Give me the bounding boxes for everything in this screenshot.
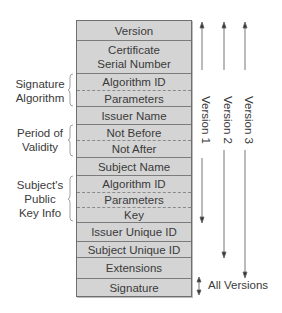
diagram-overlay xyxy=(0,0,282,313)
all-versions-label: All Versions xyxy=(208,279,268,291)
version3-label: Version 3 xyxy=(243,96,255,144)
arrow-up-icon xyxy=(243,22,247,28)
brace-icon xyxy=(68,125,73,156)
version2-label: Version 2 xyxy=(222,96,234,144)
arrow-down-icon xyxy=(243,272,247,278)
arrow-down-icon xyxy=(197,290,201,295)
arrow-up-icon xyxy=(222,22,226,28)
arrow-down-icon xyxy=(222,252,226,258)
arrow-down-icon xyxy=(200,217,204,223)
brace-icon xyxy=(68,74,73,106)
brace-icon xyxy=(68,176,73,221)
arrow-up-icon xyxy=(197,277,201,282)
version1-label: Version 1 xyxy=(200,96,212,144)
arrow-up-icon xyxy=(200,22,204,28)
